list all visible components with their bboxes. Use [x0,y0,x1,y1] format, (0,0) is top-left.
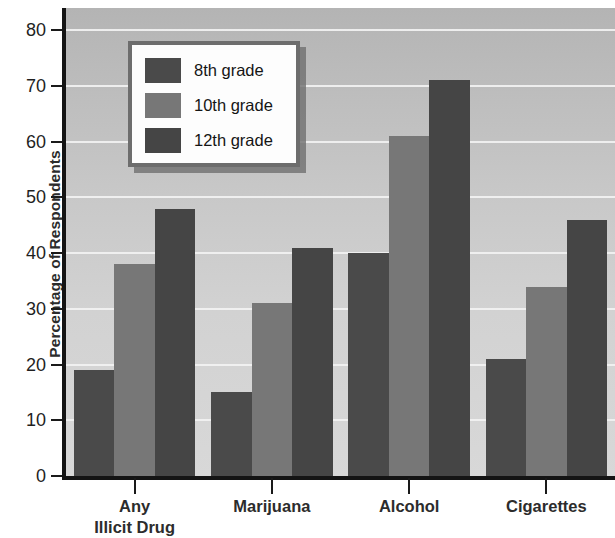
bar [486,359,527,476]
x-axis-tick-label: Cigarettes [506,496,587,517]
bar [114,264,155,476]
y-axis-tick-mark [51,252,62,254]
y-axis-tick-label: 60 [26,131,46,152]
bar [74,370,115,476]
x-axis-tick-mark [545,478,547,494]
bar [155,209,196,476]
legend-swatch [145,128,181,153]
y-axis-tick-mark [51,475,62,477]
x-axis-tick-mark [271,478,273,494]
bar [292,248,333,476]
y-axis-tick-label: 30 [26,298,46,319]
legend-item: 12th grade [132,123,296,158]
y-axis-tick-mark [51,308,62,310]
x-axis-tick-mark [408,478,410,494]
y-axis-tick-label: 40 [26,243,46,264]
legend-label: 10th grade [194,96,273,115]
y-axis-tick-mark [51,141,62,143]
legend-item: 8th grade [132,53,296,88]
y-axis-tick-mark [51,419,62,421]
bar [211,392,252,476]
gridline [66,252,615,254]
bar [429,80,470,476]
legend-label: 12th grade [194,131,273,150]
y-axis-tick-label: 80 [26,20,46,41]
y-axis-line [62,8,66,478]
y-axis-tick-label: 10 [26,410,46,431]
legend-swatch [145,58,181,83]
x-axis-tick-mark [134,478,136,494]
bar [389,136,430,476]
bar [348,253,389,476]
chart-legend: 8th grade10th grade12th grade [128,41,300,167]
x-axis-tick-label: Marijuana [233,496,310,517]
y-axis-tick-mark [51,364,62,366]
y-axis-tick-mark [51,196,62,198]
gridline [66,196,615,198]
bar [567,220,608,476]
bar [526,287,567,476]
legend-label: 8th grade [194,61,264,80]
x-axis-tick-label: Alcohol [379,496,440,517]
x-axis-tick-group: Any Illicit DrugMarijuanaAlcoholCigarett… [62,478,615,532]
x-axis-tick-label: Any Illicit Drug [94,496,175,538]
bar [252,303,293,476]
legend-swatch [145,93,181,118]
gridline [66,29,615,31]
legend-item: 10th grade [132,88,296,123]
y-axis-tick-label: 20 [26,354,46,375]
y-axis-tick-label: 70 [26,76,46,97]
y-axis-tick-group: 01020304050607080 [0,0,62,532]
y-axis-tick-mark [51,85,62,87]
y-axis-tick-label: 50 [26,187,46,208]
y-axis-tick-label: 0 [36,466,46,487]
y-axis-tick-mark [51,29,62,31]
